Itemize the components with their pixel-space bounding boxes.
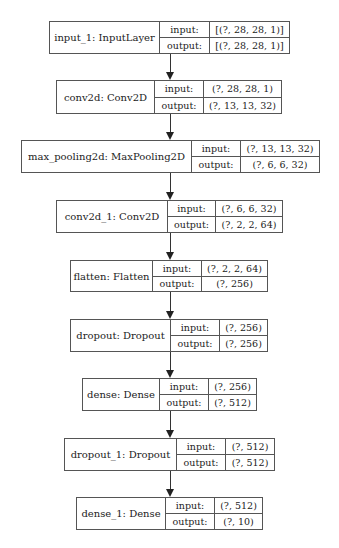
- edge-line: [170, 54, 171, 72]
- output-label: output:: [153, 277, 201, 292]
- edge-line: [170, 292, 171, 311]
- arrowhead-icon: [166, 252, 174, 260]
- input-label: input:: [155, 81, 203, 98]
- arrowhead-icon: [166, 489, 174, 497]
- edge-line: [170, 411, 171, 430]
- output-shape: (?, 512): [226, 455, 274, 470]
- output-shape: (?, 2, 2, 64): [216, 217, 282, 232]
- output-shape: [(?, 28, 28, 1)]: [210, 38, 289, 53]
- output-shape: (?, 512): [209, 395, 256, 410]
- layer-node-input-1: input_1: InputLayer input: output: [(?, …: [49, 21, 290, 54]
- output-label: output:: [171, 336, 219, 351]
- layer-name: dropout_1: Dropout: [65, 439, 177, 470]
- arrowhead-icon: [166, 192, 174, 200]
- input-label: input:: [171, 320, 219, 336]
- layer-name: dropout: Dropout: [71, 320, 171, 351]
- input-label: input:: [166, 498, 214, 514]
- layer-node-dropout: dropout: Dropout input: output: (?, 256)…: [70, 319, 268, 352]
- arrowhead-icon: [166, 132, 174, 140]
- output-label: output:: [192, 157, 240, 172]
- layer-node-dense: dense: Dense input: output: (?, 256) (?,…: [82, 378, 257, 411]
- edge-line: [170, 233, 171, 252]
- output-label: output:: [168, 217, 215, 232]
- layer-name: conv2d: Conv2D: [57, 81, 155, 113]
- output-label: output:: [160, 395, 208, 410]
- layer-name: max_pooling2d: MaxPooling2D: [22, 141, 192, 172]
- layer-node-max-pooling2d: max_pooling2d: MaxPooling2D input: outpu…: [21, 140, 320, 173]
- output-label: output:: [166, 514, 214, 529]
- input-shape: (?, 256): [209, 379, 256, 395]
- output-shape: (?, 256): [202, 277, 267, 292]
- arrowhead-icon: [166, 430, 174, 438]
- edge-line: [170, 114, 171, 132]
- input-shape: (?, 13, 13, 32): [241, 141, 319, 157]
- output-label: output:: [177, 455, 225, 470]
- edge-line: [170, 173, 171, 192]
- layer-node-conv2d: conv2d: Conv2D input: output: (?, 28, 28…: [56, 80, 282, 114]
- arrowhead-icon: [166, 370, 174, 378]
- layer-node-dropout-1: dropout_1: Dropout input: output: (?, 51…: [64, 438, 275, 471]
- input-shape: (?, 512): [226, 439, 274, 455]
- layer-node-dense-1: dense_1: Dense input: output: (?, 512) (…: [76, 497, 263, 530]
- layer-name: conv2d_1: Conv2D: [57, 201, 168, 232]
- input-shape: (?, 512): [215, 498, 262, 514]
- input-label: input:: [160, 22, 209, 38]
- input-label: input:: [168, 201, 215, 217]
- input-shape: (?, 2, 2, 64): [202, 261, 267, 277]
- layer-name: dense: Dense: [83, 379, 160, 410]
- output-shape: (?, 10): [215, 514, 262, 529]
- output-shape: (?, 256): [220, 336, 267, 351]
- output-label: output:: [160, 38, 209, 53]
- input-shape: (?, 256): [220, 320, 267, 336]
- layer-name: input_1: InputLayer: [50, 22, 160, 53]
- input-shape: (?, 28, 28, 1): [204, 81, 281, 98]
- output-shape: (?, 13, 13, 32): [204, 98, 281, 114]
- input-label: input:: [153, 261, 201, 277]
- input-label: input:: [160, 379, 208, 395]
- layer-node-conv2d-1: conv2d_1: Conv2D input: output: (?, 6, 6…: [56, 200, 283, 233]
- layer-name: dense_1: Dense: [77, 498, 166, 529]
- arrowhead-icon: [166, 311, 174, 319]
- edge-line: [170, 471, 171, 489]
- input-label: input:: [177, 439, 225, 455]
- layer-node-flatten: flatten: Flatten input: output: (?, 2, 2…: [70, 260, 268, 292]
- arrowhead-icon: [166, 72, 174, 80]
- input-shape: [(?, 28, 28, 1)]: [210, 22, 289, 38]
- input-label: input:: [192, 141, 240, 157]
- edge-line: [170, 352, 171, 370]
- input-shape: (?, 6, 6, 32): [216, 201, 282, 217]
- output-shape: (?, 6, 6, 32): [241, 157, 319, 172]
- output-label: output:: [155, 98, 203, 114]
- layer-name: flatten: Flatten: [71, 261, 153, 291]
